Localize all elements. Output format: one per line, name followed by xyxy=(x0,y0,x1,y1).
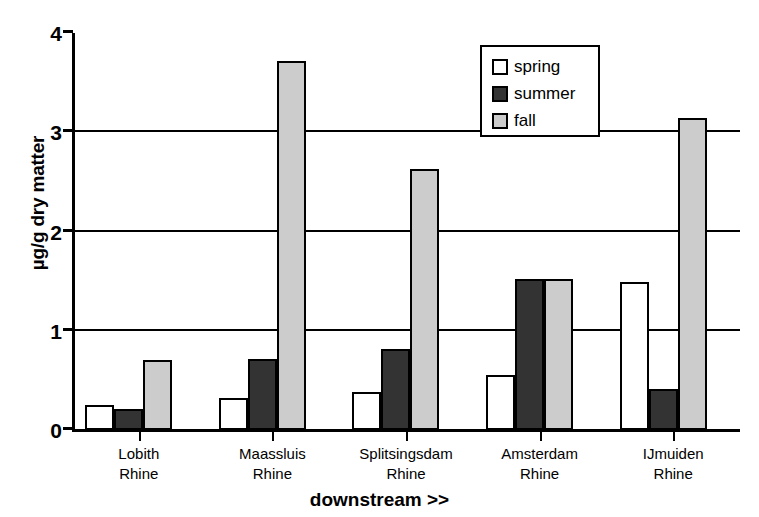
bar-group xyxy=(72,33,206,430)
bar-spring xyxy=(486,375,515,430)
legend-label-summer: summer xyxy=(514,85,575,102)
y-tick-label-2: 2 xyxy=(32,222,62,243)
x-axis-category-label: AmsterdamRhine xyxy=(473,444,607,484)
bar-fall xyxy=(277,61,306,430)
bar-fall xyxy=(678,118,707,430)
bar-summer xyxy=(114,409,143,430)
y-axis-title: µg/g dry matter xyxy=(27,73,49,333)
legend-label-fall: fall xyxy=(514,112,536,129)
x-tick-mark xyxy=(406,431,408,441)
x-axis-category-label: LobithRhine xyxy=(72,444,206,484)
bar-spring xyxy=(352,392,381,430)
plot-area: 01234 xyxy=(72,33,740,430)
bar-fall xyxy=(143,360,172,430)
y-tick-label-1: 1 xyxy=(32,321,62,342)
y-tick-label-3: 3 xyxy=(32,122,62,143)
bar-spring xyxy=(219,398,248,430)
bar-summer xyxy=(515,279,544,430)
legend-item-summer: summer xyxy=(492,80,598,107)
bar-summer xyxy=(649,389,678,430)
legend-swatch-fall xyxy=(492,113,508,129)
bar-chart: µg/g dry matter 01234 LobithRhineMaasslu… xyxy=(0,0,759,517)
y-tick-label-4: 4 xyxy=(32,23,62,44)
legend-item-spring: spring xyxy=(492,53,598,80)
y-tick-label-0: 0 xyxy=(32,420,62,441)
bar-spring xyxy=(620,282,649,430)
x-axis-category-label: MaassluisRhine xyxy=(206,444,340,484)
x-axis-title: downstream >> xyxy=(0,489,759,511)
legend-label-spring: spring xyxy=(514,58,560,75)
x-tick-mark xyxy=(540,431,542,441)
legend-swatch-summer xyxy=(492,86,508,102)
legend-swatch-spring xyxy=(492,59,508,75)
legend: spring summer fall xyxy=(480,45,600,137)
bar-summer xyxy=(381,349,410,430)
bar-group xyxy=(206,33,340,430)
x-axis-category-label: SplitsingsdamRhine xyxy=(339,444,473,484)
x-tick-mark xyxy=(272,431,274,441)
x-axis-category-label: IJmuidenRhine xyxy=(606,444,740,484)
bar-group xyxy=(606,33,740,430)
x-tick-mark xyxy=(673,431,675,441)
bar-fall xyxy=(410,169,439,430)
bar-summer xyxy=(248,359,277,430)
x-tick-mark xyxy=(139,431,141,441)
bar-group xyxy=(339,33,473,430)
bar-fall xyxy=(544,279,573,430)
legend-item-fall: fall xyxy=(492,107,598,134)
bar-spring xyxy=(85,405,114,430)
